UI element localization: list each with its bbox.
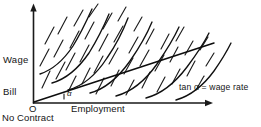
hatch-stroke: [200, 37, 208, 50]
hatch-stroke: [85, 22, 94, 39]
y-axis-arrowhead: [30, 4, 36, 12]
hatch-stroke: [176, 27, 184, 41]
x-axis-label: Employment: [71, 104, 125, 115]
hatch-stroke: [134, 17, 142, 31]
hatch-stroke: [99, 34, 108, 51]
hatch-stroke: [58, 17, 67, 34]
x-axis-arrowhead: [205, 100, 213, 106]
hatch-stroke: [70, 31, 79, 48]
hatch-stroke: [42, 71, 50, 88]
hatch-stroke: [45, 27, 54, 44]
hatch-stroke: [140, 50, 149, 66]
hatch-stroke: [206, 53, 214, 66]
angle-alpha-label: α: [67, 90, 72, 99]
hatch-stroke: [66, 53, 75, 70]
hatch-stroke: [109, 48, 118, 64]
y-axis-label-line2: Bill: [3, 87, 28, 98]
hatch-stroke: [54, 40, 63, 57]
hatch-stroke: [89, 4, 98, 17]
hatch-stroke: [40, 49, 49, 66]
y-axis-label: Wage Bill: [3, 34, 28, 119]
hatch-stroke: [155, 55, 164, 71]
hatch-stroke: [103, 13, 112, 29]
hatch-stroke: [74, 10, 83, 26]
wage-rate-annotation: tan α = wage rate: [179, 83, 248, 93]
diagram-canvas: [0, 0, 261, 127]
y-axis-label-line1: Wage: [3, 55, 28, 66]
no-contract-label: No Contract: [2, 113, 54, 124]
hatch-stroke: [118, 7, 126, 21]
hatch-stroke: [126, 80, 134, 95]
indifference-curve: [68, 18, 128, 90]
hatch-stroke: [187, 61, 195, 76]
figure-container: Wage Bill O Employment No Contract α tan…: [0, 0, 261, 127]
